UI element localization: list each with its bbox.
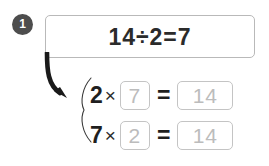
row-1-blank-value: 7 xyxy=(129,85,142,106)
row-2-factor: 7 xyxy=(90,124,103,147)
row-1-times-icon: × xyxy=(105,86,116,105)
row-1-blank-input[interactable]: 7 xyxy=(120,81,150,110)
factor-row-1: 2 × 7 = 14 xyxy=(90,80,233,110)
row-1-product-input[interactable]: 14 xyxy=(177,81,233,110)
problem-number-badge: 1 xyxy=(12,14,33,35)
worksheet-problem-panel: 1 14÷2=7 2 × 7 = 14 7 × 2 = 14 xyxy=(0,0,269,166)
given-equation-text: 14÷2=7 xyxy=(46,23,254,50)
row-2-product-input[interactable]: 14 xyxy=(177,121,233,150)
row-2-product-value: 14 xyxy=(193,125,218,146)
row-2-times-icon: × xyxy=(105,126,116,145)
row-1-factor: 2 xyxy=(90,84,103,107)
row-1-equals-icon: = xyxy=(157,84,170,107)
row-2-blank-input[interactable]: 2 xyxy=(120,121,150,150)
factor-row-2: 7 × 2 = 14 xyxy=(90,120,233,150)
row-2-blank-value: 2 xyxy=(129,125,142,146)
row-2-equals-icon: = xyxy=(157,124,170,147)
row-1-product-value: 14 xyxy=(193,85,218,106)
